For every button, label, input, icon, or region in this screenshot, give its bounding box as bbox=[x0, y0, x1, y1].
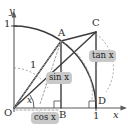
chip-cosine-label: cos x bbox=[31, 112, 59, 124]
point-label-C: C bbox=[92, 18, 100, 28]
radius-length-label: 1 bbox=[30, 60, 36, 70]
y-axis-label: y bbox=[9, 6, 15, 16]
dashed-arc-C-to-D bbox=[96, 34, 113, 92]
right-angle-marker-B bbox=[54, 101, 61, 108]
x-axis-label: x bbox=[113, 110, 119, 120]
y-tick-label-1: 1 bbox=[4, 19, 10, 29]
point-label-O: O bbox=[4, 108, 12, 118]
angle-label-x: x bbox=[27, 96, 32, 105]
point-label-B: B bbox=[59, 110, 66, 120]
point-label-D: D bbox=[98, 96, 106, 106]
x-tick-label-1: 1 bbox=[93, 111, 99, 121]
unit-circle-trig-figure: y x 1 1 O A B C D x 1 sin x cos x tan x bbox=[0, 0, 128, 136]
chip-tangent-label: tan x bbox=[89, 50, 116, 62]
dashed-inner-arc bbox=[14, 68, 48, 88]
x-axis-arrowhead bbox=[121, 106, 128, 111]
right-angle-marker-D bbox=[89, 101, 96, 108]
point-label-A: A bbox=[58, 28, 65, 38]
chip-sine-label: sin x bbox=[46, 72, 72, 84]
